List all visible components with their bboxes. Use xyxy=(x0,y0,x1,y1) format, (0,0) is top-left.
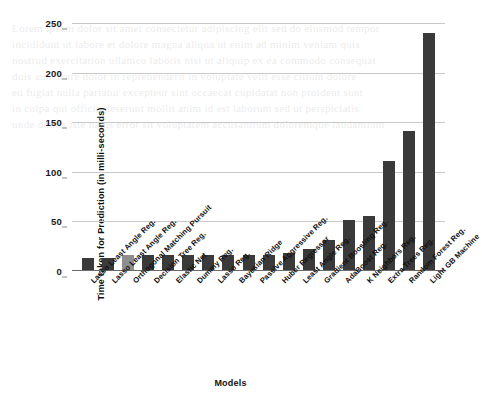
y-tick-mark xyxy=(62,277,67,278)
bar-slot xyxy=(78,23,98,271)
x-label-slot: Lasso Reg. xyxy=(205,274,226,369)
x-label-slot: Huber Regressor xyxy=(269,274,290,369)
x-axis-title: Models xyxy=(0,378,461,388)
y-axis-tick-labels: 050100150200250 xyxy=(0,23,66,271)
x-label-slot: Light GB Machine xyxy=(418,274,439,369)
x-label-slot: Passive Aggressive Reg. xyxy=(248,274,269,369)
bar-slot xyxy=(218,23,238,271)
x-label-slot: Elastic Net xyxy=(163,274,184,369)
x-label-slot: Bayesian Ridge xyxy=(227,274,248,369)
y-tick-mark xyxy=(62,227,67,228)
y-tick-mark xyxy=(62,29,67,30)
y-tick-mark xyxy=(62,128,67,129)
y-tick-mark xyxy=(62,177,67,178)
x-label-slot: Extra Trees Reg. xyxy=(375,274,396,369)
x-label-slot: Gradient Boosting Reg. xyxy=(312,274,333,369)
x-label-slot: Random Forest Reg. xyxy=(397,274,418,369)
bar-series xyxy=(72,23,445,271)
x-label-slot: AdaBoost Reg. xyxy=(333,274,354,369)
y-tick-label: 250 xyxy=(46,18,62,29)
bar-slot xyxy=(259,23,279,271)
y-tick-label: 100 xyxy=(46,166,62,177)
y-tick-label: 200 xyxy=(46,67,62,78)
x-label-slot: K Neighbors Reg. xyxy=(354,274,375,369)
bar-slot xyxy=(339,23,359,271)
x-axis-tick-labels: Lasso Least Angle Reg.Lasso Least Angle … xyxy=(72,274,445,369)
x-label-slot: Lasso Least Angle Reg. xyxy=(78,274,99,369)
x-label-slot: Orthogonal Matching Pursuit xyxy=(120,274,141,369)
x-label-slot: Least Angle Reg. xyxy=(290,274,311,369)
x-label-slot: Dummy Reg. xyxy=(184,274,205,369)
bar-slot xyxy=(239,23,259,271)
y-tick-mark xyxy=(62,78,67,79)
bar-slot xyxy=(279,23,299,271)
x-label-slot: Lasso Least Angle Reg. xyxy=(99,274,120,369)
y-tick-label: 150 xyxy=(46,117,62,128)
bar-slot xyxy=(319,23,339,271)
bar-slot xyxy=(98,23,118,271)
plot-area xyxy=(72,23,445,271)
bar-slot xyxy=(419,23,439,271)
y-tick-label: 0 xyxy=(57,266,62,277)
x-label-slot: Decision Tree Reg. xyxy=(142,274,163,369)
bar-slot xyxy=(379,23,399,271)
y-tick-label: 50 xyxy=(51,216,62,227)
